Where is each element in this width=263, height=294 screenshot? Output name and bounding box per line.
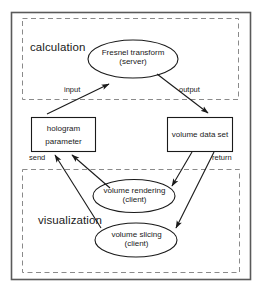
node-label-fresnel-transform: Fresnel transform (server) — [88, 48, 178, 66]
node-label-volume-data-set: volume data set — [167, 130, 233, 139]
zone-title-calculation: calculation — [30, 41, 85, 54]
node-label-hologram-parameter-line1: hologram — [47, 124, 80, 133]
node-label-hologram-parameter-line2: parameter — [31, 137, 96, 146]
edge-label-return: return — [212, 154, 232, 163]
diagram-canvas: calculation visualization Fresnel transf… — [0, 0, 263, 294]
edge-label-output: output — [179, 86, 200, 95]
node-label-fresnel-transform-line2: (server) — [88, 57, 178, 66]
node-label-volume-rendering-line2: (client) — [94, 195, 175, 204]
node-label-volume-slicing-line1: volume slicing — [111, 230, 161, 239]
edge-label-input: input — [64, 86, 80, 95]
node-label-volume-data-set-line1: volume data set — [172, 130, 228, 139]
node-label-volume-rendering-line1: volume rendering — [104, 186, 166, 195]
node-label-volume-slicing-line2: (client) — [96, 239, 177, 248]
edge-label-send: send — [29, 154, 45, 163]
node-label-hologram-parameter: hologram parameter — [31, 124, 96, 146]
node-label-volume-slicing: volume slicing (client) — [96, 230, 177, 248]
node-label-fresnel-transform-line1: Fresnel transform — [102, 48, 165, 57]
zone-title-visualization: visualization — [38, 214, 102, 227]
node-label-volume-rendering: volume rendering (client) — [94, 186, 175, 204]
